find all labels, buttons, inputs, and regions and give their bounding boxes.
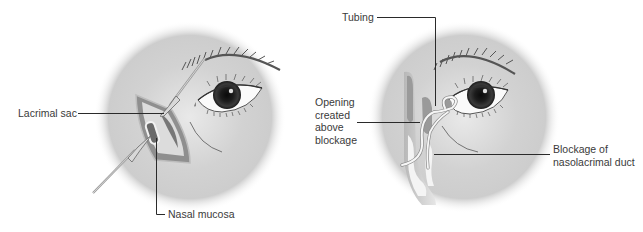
label-opening-line-2: created bbox=[315, 109, 365, 122]
iris-right bbox=[467, 81, 495, 109]
right-panel bbox=[357, 18, 560, 214]
label-tubing: Tubing bbox=[342, 11, 374, 24]
label-nasal-mucosa: Nasal mucosa bbox=[168, 208, 235, 221]
label-blockage-line-1: Blockage of bbox=[553, 143, 643, 156]
face-region-left bbox=[94, 21, 286, 213]
left-panel bbox=[78, 21, 286, 215]
label-blockage-of-nasolacrimal-duct: Blockage of nasolacrimal duct bbox=[553, 143, 643, 168]
label-opening-line-4: blockage bbox=[315, 134, 365, 147]
label-blockage-line-2: nasolacrimal duct bbox=[553, 156, 643, 169]
label-opening-line-3: above bbox=[315, 121, 365, 134]
label-opening-created-above-blockage: Opening created above blockage bbox=[315, 96, 365, 146]
label-lacrimal-sac: Lacrimal sac bbox=[18, 107, 77, 120]
label-opening-line-1: Opening bbox=[315, 96, 365, 109]
